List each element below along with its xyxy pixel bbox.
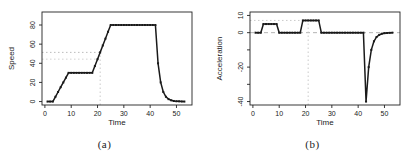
svg-text:50: 50: [381, 110, 389, 117]
svg-text:20: 20: [30, 78, 37, 86]
svg-text:10: 10: [238, 11, 245, 19]
speed-figure: 01020304050020406080TimeSpeed (a): [2, 2, 207, 150]
subfigure-caption-b: (b): [210, 138, 415, 150]
svg-text:50: 50: [173, 110, 181, 117]
svg-text:0: 0: [251, 110, 255, 117]
svg-text:30: 30: [328, 110, 336, 117]
svg-text:40: 40: [146, 110, 154, 117]
svg-text:40: 40: [30, 59, 37, 67]
svg-text:Speed: Speed: [7, 47, 16, 70]
svg-text:Time: Time: [108, 118, 126, 127]
svg-text:10: 10: [67, 110, 75, 117]
acceleration-figure: 01020304050100-20-40TimeAcceleration (b): [210, 2, 415, 150]
svg-text:60: 60: [30, 40, 37, 48]
svg-text:-40: -40: [238, 96, 245, 106]
svg-text:0: 0: [30, 100, 37, 104]
svg-text:0: 0: [43, 110, 47, 117]
subfigure-caption-a: (a): [2, 138, 207, 150]
svg-text:30: 30: [120, 110, 128, 117]
svg-text:0: 0: [238, 31, 245, 35]
svg-text:20: 20: [94, 110, 102, 117]
speed-time-chart: 01020304050020406080TimeSpeed: [2, 2, 207, 134]
svg-text:10: 10: [275, 110, 283, 117]
svg-text:Acceleration: Acceleration: [215, 36, 224, 80]
svg-text:20: 20: [302, 110, 310, 117]
svg-text:-20: -20: [238, 62, 245, 72]
svg-text:80: 80: [30, 21, 37, 29]
acceleration-time-chart: 01020304050100-20-40TimeAcceleration: [210, 2, 415, 134]
svg-text:Time: Time: [316, 118, 334, 127]
svg-text:40: 40: [354, 110, 362, 117]
